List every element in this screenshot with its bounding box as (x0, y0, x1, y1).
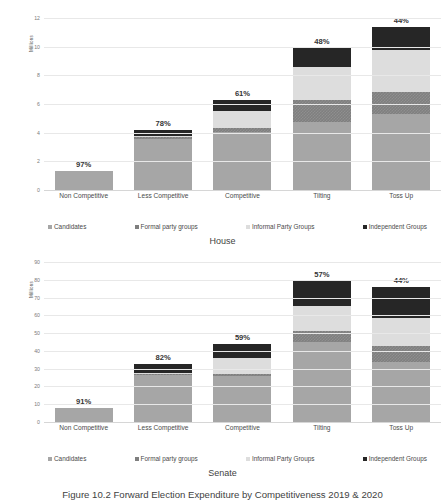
house-legend-item-informal[interactable]: Informal Party Groups (246, 223, 315, 230)
senate-y-tick-label: 60 (34, 312, 40, 318)
house-segment-independent-groups[interactable] (293, 48, 351, 67)
house-legend-label: Candidates (54, 223, 86, 230)
senate-chart-title: Senate (0, 468, 445, 478)
senate-bar-group[interactable]: 59% (207, 262, 278, 422)
house-gridline (44, 18, 441, 19)
senate-bar-group[interactable]: 57% (286, 262, 357, 422)
senate-segment-informal-party-groups[interactable] (213, 358, 271, 374)
senate-y-axis: 0102030405060708090 (0, 250, 40, 490)
senate-gridline (44, 404, 441, 405)
senate-legend-label: Informal Party Groups (252, 455, 315, 462)
senate-y-tick-label: 0 (37, 419, 40, 425)
senate-legend-label: Formal party groups (141, 455, 198, 462)
senate-category-label: Non Competitive (48, 424, 119, 431)
house-segment-informal-party-groups[interactable] (372, 50, 430, 92)
senate-legend-item-formal[interactable]: Formal party groups (135, 455, 198, 462)
house-segment-candidates[interactable] (134, 139, 192, 190)
house-gridline (44, 133, 441, 134)
house-segment-candidates[interactable] (372, 114, 430, 190)
house-y-tick-label: 6 (37, 101, 40, 107)
senate-y-tick-label: 10 (34, 401, 40, 407)
senate-bars: 91%82%59%57%44% (44, 262, 441, 422)
senate-gridline (44, 333, 441, 334)
senate-legend-item-candidates[interactable]: Candidates (48, 455, 86, 462)
senate-bar-stack[interactable] (55, 408, 113, 422)
senate-segment-informal-party-groups[interactable] (293, 306, 351, 332)
senate-segment-candidates[interactable] (293, 342, 351, 422)
house-category-label: Toss Up (366, 192, 437, 199)
legend-swatch-formal-icon (135, 225, 139, 229)
house-legend-item-independent[interactable]: Independent Groups (363, 223, 427, 230)
senate-bar-stack[interactable] (134, 364, 192, 422)
senate-segment-independent-groups[interactable] (372, 287, 430, 318)
senate-segment-candidates[interactable] (55, 408, 113, 422)
senate-bar-group[interactable]: 82% (127, 262, 198, 422)
house-y-tick-label: 12 (34, 15, 40, 21)
house-category-label: Tilting (286, 192, 357, 199)
senate-y-tick-label: 40 (34, 348, 40, 354)
legend-swatch-formal-icon (135, 457, 139, 461)
senate-y-tick-label: 80 (34, 277, 40, 283)
house-legend-item-formal[interactable]: Formal party groups (135, 223, 198, 230)
senate-category-label: Tilting (286, 424, 357, 431)
legend-swatch-informal-icon (246, 457, 250, 461)
senate-bar-percent-label: 82% (127, 353, 198, 362)
house-bar-stack[interactable] (293, 48, 351, 190)
house-segment-informal-party-groups[interactable] (293, 67, 351, 101)
senate-gridline (44, 262, 441, 263)
senate-y-tick-label: 50 (34, 330, 40, 336)
figure-caption: Figure 10.2 Forward Election Expenditure… (0, 489, 445, 500)
house-legend-label: Independent Groups (369, 223, 427, 230)
house-legend-item-candidates[interactable]: Candidates (48, 223, 86, 230)
senate-legend: CandidatesFormal party groupsInformal Pa… (34, 455, 441, 462)
house-legend-label: Formal party groups (141, 223, 198, 230)
senate-category-label: Less Competitive (127, 424, 198, 431)
legend-swatch-informal-icon (246, 225, 250, 229)
house-bar-stack[interactable] (213, 100, 271, 190)
house-category-label: Less Competitive (127, 192, 198, 199)
senate-segment-candidates[interactable] (134, 375, 192, 422)
house-y-axis: 024681012 (0, 0, 40, 250)
senate-gridline (44, 369, 441, 370)
house-gridline (44, 161, 441, 162)
house-chart: Millions 024681012 97%78%61%48%44% Non C… (0, 0, 445, 250)
house-bar-stack[interactable] (372, 27, 430, 190)
house-segment-informal-party-groups[interactable] (213, 111, 271, 127)
house-category-axis: Non CompetitiveLess CompetitiveCompetiti… (44, 192, 441, 199)
senate-bar-stack[interactable] (213, 344, 271, 422)
house-segment-candidates[interactable] (55, 171, 113, 190)
house-bar-percent-label: 48% (286, 37, 357, 46)
house-gridline (44, 75, 441, 76)
senate-bar-group[interactable]: 91% (48, 262, 119, 422)
house-bar-stack[interactable] (55, 171, 113, 190)
house-gridline (44, 104, 441, 105)
house-bar-stack[interactable] (134, 130, 192, 190)
senate-legend-label: Independent Groups (369, 455, 427, 462)
legend-swatch-candidates-icon (48, 457, 52, 461)
senate-gridline (44, 298, 441, 299)
senate-gridline (44, 386, 441, 387)
senate-bar-group[interactable]: 44% (366, 262, 437, 422)
legend-swatch-candidates-icon (48, 225, 52, 229)
house-bar-percent-label: 78% (127, 119, 198, 128)
senate-y-tick-label: 70 (34, 295, 40, 301)
senate-category-axis: Non CompetitiveLess CompetitiveCompetiti… (44, 424, 441, 431)
house-y-tick-label: 2 (37, 158, 40, 164)
legend-swatch-independent-icon (363, 225, 367, 229)
house-legend-label: Informal Party Groups (252, 223, 315, 230)
senate-bar-stack[interactable] (372, 287, 430, 422)
senate-legend-item-independent[interactable]: Independent Groups (363, 455, 427, 462)
senate-segment-independent-groups[interactable] (293, 281, 351, 306)
senate-y-tick-label: 30 (34, 366, 40, 372)
senate-segment-candidates[interactable] (372, 362, 430, 422)
senate-gridline (44, 315, 441, 316)
senate-bar-percent-label: 57% (286, 270, 357, 279)
house-bar-percent-label: 61% (207, 89, 278, 98)
senate-legend-item-informal[interactable]: Informal Party Groups (246, 455, 315, 462)
senate-segment-formal-party-groups[interactable] (372, 346, 430, 361)
house-segment-formal-party-groups[interactable] (372, 92, 430, 114)
senate-gridline (44, 280, 441, 281)
senate-segment-candidates[interactable] (213, 376, 271, 422)
house-category-label: Competitive (207, 192, 278, 199)
house-segment-independent-groups[interactable] (213, 100, 271, 111)
